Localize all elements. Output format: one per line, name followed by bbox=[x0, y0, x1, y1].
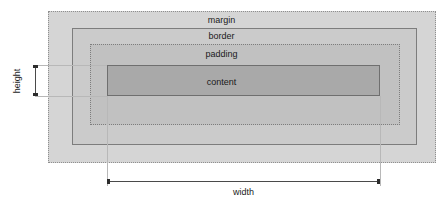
height-label: height bbox=[11, 62, 23, 100]
width-dimension-line bbox=[107, 181, 380, 182]
guide-line-content-right bbox=[380, 96, 381, 186]
height-dimension-line bbox=[35, 65, 36, 96]
arrow-cap-right-icon bbox=[377, 179, 380, 184]
content-label: content bbox=[0, 78, 443, 87]
guide-line-content-top bbox=[35, 65, 107, 66]
box-model-diagram: margin border padding content height wid… bbox=[0, 0, 443, 210]
margin-label: margin bbox=[0, 16, 443, 25]
border-label: border bbox=[0, 32, 443, 41]
arrow-cap-down-icon bbox=[33, 93, 38, 96]
padding-label: padding bbox=[0, 50, 443, 59]
guide-line-content-bottom bbox=[35, 96, 107, 97]
guide-line-content-left bbox=[107, 96, 108, 186]
width-label: width bbox=[107, 188, 380, 197]
arrow-cap-up-icon bbox=[33, 65, 38, 68]
arrow-cap-left-icon bbox=[107, 179, 110, 184]
